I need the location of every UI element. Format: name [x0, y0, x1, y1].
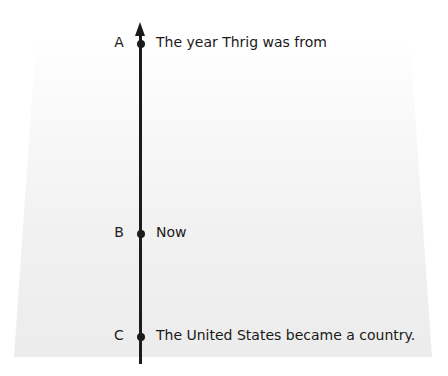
background-trapezoid — [0, 0, 448, 376]
timeline-axis — [139, 30, 142, 364]
point-a-marker — [137, 40, 145, 48]
point-c-letter: C — [112, 327, 126, 343]
point-b-letter: B — [112, 224, 126, 240]
point-c-label: The United States became a country. — [156, 327, 415, 343]
point-b-marker — [137, 230, 145, 238]
point-a-letter: A — [112, 34, 126, 50]
point-c-marker — [137, 333, 145, 341]
point-b-label: Now — [156, 224, 187, 240]
point-a-label: The year Thrig was from — [156, 34, 327, 50]
